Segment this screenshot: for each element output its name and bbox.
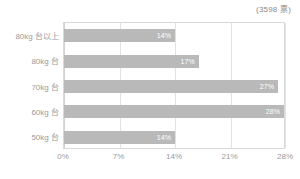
bar-row: 17% <box>64 48 284 73</box>
bar: 27% <box>64 80 278 93</box>
category-label: 80kg 台以上 <box>15 30 59 41</box>
plot-area: 14%17%27%28%14% <box>63 22 285 149</box>
bar-value-label: 27% <box>260 83 278 90</box>
gridline-28pct <box>285 23 286 148</box>
bar-row: 14% <box>64 125 284 150</box>
bar-value-label: 14% <box>157 32 175 39</box>
bar-value-label: 28% <box>266 108 284 115</box>
category-label: 50kg 台 <box>31 131 59 142</box>
category-label: 80kg 台 <box>31 55 59 66</box>
x-tick-label: 14% <box>166 152 182 161</box>
x-tick-label: 28% <box>277 152 293 161</box>
bar-row: 27% <box>64 74 284 99</box>
x-tick-label: 7% <box>113 152 125 161</box>
bar: 28% <box>64 105 284 118</box>
bar: 14% <box>64 131 175 144</box>
bar-row: 14% <box>64 23 284 48</box>
bar-chart-widget: (3598 票) 14%17%27%28%14% 80kg 台以上80kg 台7… <box>0 0 300 179</box>
x-tick-label: 21% <box>221 152 237 161</box>
bars-group: 14%17%27%28%14% <box>64 23 284 148</box>
bar: 14% <box>64 29 175 42</box>
bar: 17% <box>64 55 199 68</box>
category-label: 60kg 台 <box>31 106 59 117</box>
bar-row: 28% <box>64 99 284 124</box>
vote-count-annotation: (3598 票) <box>256 3 291 14</box>
bar-value-label: 14% <box>157 134 175 141</box>
category-label: 70kg 台 <box>31 81 59 92</box>
bar-value-label: 17% <box>180 58 198 65</box>
x-tick-label: 0% <box>57 152 69 161</box>
